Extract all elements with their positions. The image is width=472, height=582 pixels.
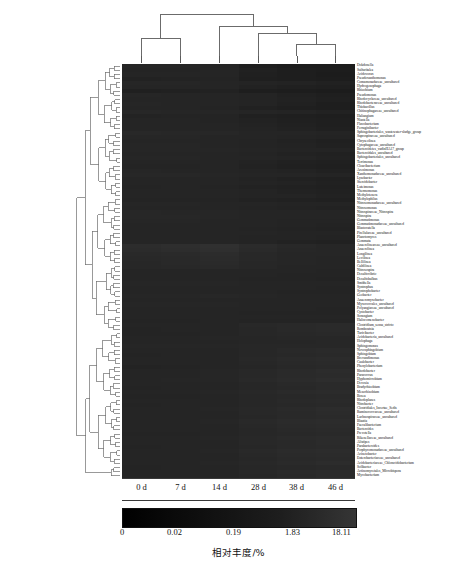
column-dendrogram xyxy=(122,8,355,56)
heatmap-figure: DokdonellaSulfuritaleaAcidovoraxPseudoxa… xyxy=(0,0,472,582)
colorbar-tick-002: 0.02 xyxy=(167,527,182,537)
x-tick-label-38d: 38 d xyxy=(277,482,316,492)
x-axis: 0 d 7 d 14 d 28 d 38 d 46 d xyxy=(122,478,355,502)
colorbar xyxy=(122,508,355,526)
row-label-list: DokdonellaSulfuritaleaAcidovoraxPseudoxa… xyxy=(357,64,470,478)
x-tick-label-7d: 7 d xyxy=(161,482,200,492)
x-axis-line-bottom xyxy=(122,500,355,501)
colorbar-gradient xyxy=(122,508,357,528)
x-tick-label-14d: 14 d xyxy=(200,482,239,492)
colorbar-tick-183: 1.83 xyxy=(285,527,300,537)
column-tick-marks xyxy=(122,56,355,64)
x-tick-label-28d: 28 d xyxy=(239,482,278,492)
row-label: Mycobacterium xyxy=(357,473,379,477)
colorbar-tick-0: 0 xyxy=(120,527,124,537)
x-axis-line-top xyxy=(122,478,355,479)
heatmap-grid xyxy=(122,64,355,478)
colorbar-tick-labels: 0 0.02 0.19 1.83 18.11 xyxy=(122,527,355,541)
x-tick-label-46d: 46 d xyxy=(316,482,355,492)
row-dendrogram xyxy=(12,64,120,478)
colorbar-tick-1811: 18.11 xyxy=(332,527,351,537)
colorbar-title: 相对丰度/% xyxy=(122,545,355,559)
x-tick-label-0d: 0 d xyxy=(122,482,161,492)
colorbar-tick-019: 0.19 xyxy=(226,527,241,537)
